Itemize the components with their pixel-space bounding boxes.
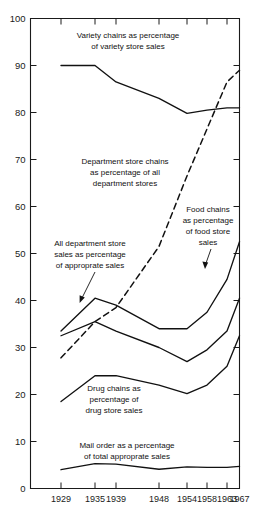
leader-arrow-all-department-store-sales xyxy=(80,295,85,303)
series-line-5 xyxy=(61,464,240,470)
y-tick-label: 20 xyxy=(15,389,26,400)
x-tick-label: 1958 xyxy=(197,494,217,504)
series-line-3 xyxy=(61,298,240,361)
annotation-line: of total approprate sales xyxy=(84,452,170,461)
annotation-line: Mail order as a percentage xyxy=(79,441,175,450)
annotation-line: department stores xyxy=(93,179,157,188)
y-tick-label: 60 xyxy=(15,201,26,212)
annotation-all-department-store-sales: All department store sales as percentage… xyxy=(54,239,126,303)
annotation-line: drug store sales xyxy=(86,406,143,415)
annotation-department-store-chains: Department store chains as percentage of… xyxy=(81,157,168,188)
y-tick-label: 50 xyxy=(15,248,26,259)
x-tick-label: 1948 xyxy=(149,494,169,504)
annotation-line: All department store xyxy=(54,239,126,248)
annotation-line: Drug chains as xyxy=(87,384,140,393)
y-tick-label: 40 xyxy=(15,295,26,306)
annotation-variety-chains: Variety chains as percentage of variety … xyxy=(77,31,180,51)
annotation-line: as percentage of all xyxy=(90,168,160,177)
annotation-line: of approprate sales xyxy=(56,261,125,270)
x-tick-label: 1954 xyxy=(177,494,197,504)
annotation-line: sales xyxy=(199,238,218,247)
annotation-line: percentage of xyxy=(90,395,140,404)
y-tick-label: 30 xyxy=(15,342,26,353)
annotation-line: Variety chains as percentage xyxy=(77,31,180,40)
annotation-line: Department store chains xyxy=(81,157,168,166)
x-tick-label: 1967 xyxy=(229,494,249,504)
y-tick-label: 0 xyxy=(20,483,25,494)
x-tick-label: 1939 xyxy=(106,494,126,504)
annotation-line: as percentage xyxy=(183,216,234,225)
x-tick-label: 1929 xyxy=(51,494,71,504)
leader-arrow-food-chains xyxy=(202,262,208,269)
y-tick-label: 100 xyxy=(10,13,26,24)
y-tick-label: 70 xyxy=(15,154,26,165)
annotation-food-chains: Food chains as percentage of food store … xyxy=(183,205,234,269)
series-line-0 xyxy=(61,66,240,114)
chart-container: 0102030405060708090100 19291935193919481… xyxy=(0,0,264,510)
annotation-line: of food store xyxy=(186,227,231,236)
annotation-mail-order: Mail order as a percentage of total appr… xyxy=(79,441,175,461)
x-tick-label: 1935 xyxy=(85,494,105,504)
series-line-1 xyxy=(61,70,240,358)
y-tick-label: 90 xyxy=(15,60,26,71)
line-chart: 0102030405060708090100 19291935193919481… xyxy=(0,0,264,510)
annotation-line: sales as percentage xyxy=(54,250,126,259)
y-tick-label: 10 xyxy=(15,436,26,447)
annotation-line: Food chains xyxy=(186,205,230,214)
annotation-line: of variety store sales xyxy=(91,42,164,51)
y-tick-label: 80 xyxy=(15,107,26,118)
leader-line-all-department-store-sales xyxy=(81,272,95,300)
annotation-drug-chains: Drug chains as percentage of drug store … xyxy=(86,384,143,415)
